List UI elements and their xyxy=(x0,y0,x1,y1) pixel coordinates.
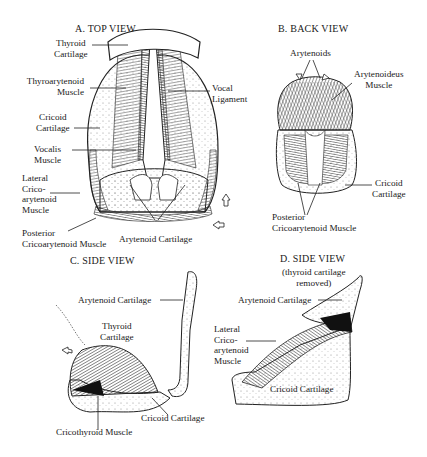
label-thyroid-cartilage-c: Thyroid Cartilage xyxy=(100,321,134,342)
label-lateral-cricoarytenoid-a: Lateral Crico- arytenoid Muscle xyxy=(22,173,57,215)
panel-d-title: D. SIDE VIEW xyxy=(280,253,345,264)
label-arytenoid-cartilage-c: Arytenoid Cartilage xyxy=(78,295,151,306)
label-vocal-ligament: Vocal Ligament xyxy=(212,83,247,104)
label-posterior-cricoarytenoid-b: Posterior Cricoarytenoid Muscle xyxy=(272,212,356,233)
panel-c-title: C. SIDE VIEW xyxy=(70,255,135,266)
label-cricoid-cartilage-d: Cricoid Cartilage xyxy=(270,384,334,395)
label-arytenoid-cartilage-d: Arytenoid Cartilage xyxy=(238,295,311,306)
label-arytenoideus-muscle: Arytenoideus Muscle xyxy=(354,69,404,90)
label-vocalis-muscle: Vocalis Muscle xyxy=(34,144,61,165)
label-posterior-cricoarytenoid-a: Posterior Cricoarytenoid Muscle xyxy=(22,228,106,249)
label-lateral-cricoarytenoid-d: Lateral Crico- arytenoid Muscle xyxy=(214,324,249,366)
panel-d-subtitle: (thyroid cartilage removed) xyxy=(282,267,346,288)
panel-b-title: B. BACK VIEW xyxy=(278,23,348,34)
label-arytenoids: Arytenoids xyxy=(290,48,331,59)
label-cricothyroid-muscle: Cricothyroid Muscle xyxy=(56,427,132,438)
label-thyroarytenoid-muscle: Thyroarytenoid Muscle xyxy=(20,76,84,97)
label-cricoid-cartilage-a: Cricoid Cartilage xyxy=(36,112,70,133)
panel-a-title: A. TOP VIEW xyxy=(75,23,136,34)
label-cricoid-cartilage-c: Cricoid Cartilage xyxy=(141,413,205,424)
label-thyroid-cartilage-a: Thyroid Cartilage xyxy=(54,38,88,59)
top-view-drawing xyxy=(50,29,230,231)
label-arytenoid-cartilage-a: Arytenoid Cartilage xyxy=(119,234,192,245)
label-cricoid-cartilage-b: Cricoid Cartilage xyxy=(372,178,406,199)
